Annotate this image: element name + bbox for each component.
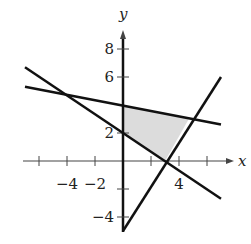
- y-axis-arrow: [120, 30, 126, 39]
- y-tick-label: 2: [104, 124, 114, 142]
- x-tick-label: 4: [174, 175, 184, 193]
- x-axis-arrow: [226, 158, 234, 164]
- y-tick-label: 8: [104, 40, 114, 58]
- x-tick-label: −2: [84, 175, 106, 193]
- y-axis-label: y: [118, 5, 128, 23]
- chart: −4−24862−4xy: [0, 0, 251, 244]
- y-tick-label: −4: [92, 208, 114, 226]
- shaded-region: [123, 105, 189, 161]
- x-axis-label: x: [238, 152, 247, 170]
- line-3: [123, 77, 221, 231]
- x-tick-label: −4: [56, 175, 78, 193]
- y-tick-label: 6: [104, 68, 114, 86]
